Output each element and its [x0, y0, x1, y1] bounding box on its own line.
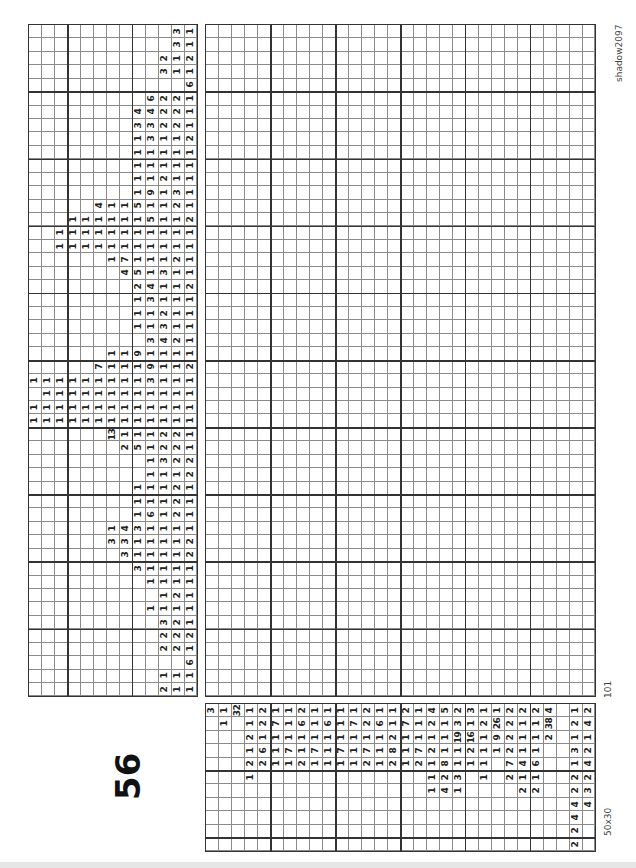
grid-cell[interactable] — [492, 616, 505, 629]
grid-cell[interactable] — [518, 159, 531, 172]
grid-cell[interactable] — [388, 92, 401, 105]
grid-cell[interactable] — [544, 119, 557, 132]
grid-cell[interactable] — [518, 79, 531, 92]
grid-cell[interactable] — [245, 307, 258, 320]
grid-cell[interactable] — [479, 119, 492, 132]
grid-cell[interactable] — [349, 656, 362, 669]
grid-cell[interactable] — [258, 495, 271, 508]
grid-cell[interactable] — [440, 79, 453, 92]
grid-cell[interactable] — [570, 186, 583, 199]
grid-cell[interactable] — [310, 267, 323, 280]
grid-cell[interactable] — [401, 92, 414, 105]
grid-cell[interactable] — [271, 226, 284, 239]
grid-cell[interactable] — [297, 52, 310, 65]
grid-cell[interactable] — [466, 495, 479, 508]
grid-cell[interactable] — [492, 535, 505, 548]
grid-cell[interactable] — [362, 200, 375, 213]
grid-cell[interactable] — [323, 482, 336, 495]
grid-cell[interactable] — [557, 602, 570, 615]
grid-cell[interactable] — [531, 522, 544, 535]
grid-cell[interactable] — [492, 656, 505, 669]
grid-cell[interactable] — [479, 562, 492, 575]
grid-cell[interactable] — [388, 656, 401, 669]
grid-cell[interactable] — [401, 38, 414, 51]
grid-cell[interactable] — [544, 159, 557, 172]
grid-cell[interactable] — [362, 52, 375, 65]
grid-cell[interactable] — [362, 495, 375, 508]
grid-cell[interactable] — [505, 253, 518, 266]
grid-cell[interactable] — [531, 132, 544, 145]
grid-cell[interactable] — [297, 146, 310, 159]
grid-cell[interactable] — [206, 146, 219, 159]
grid-cell[interactable] — [297, 226, 310, 239]
grid-cell[interactable] — [583, 549, 596, 562]
grid-cell[interactable] — [336, 173, 349, 186]
grid-cell[interactable] — [583, 441, 596, 454]
grid-cell[interactable] — [375, 119, 388, 132]
grid-cell[interactable] — [427, 267, 440, 280]
grid-cell[interactable] — [206, 186, 219, 199]
grid-cell[interactable] — [271, 253, 284, 266]
grid-cell[interactable] — [518, 401, 531, 414]
grid-cell[interactable] — [258, 589, 271, 602]
grid-cell[interactable] — [349, 52, 362, 65]
grid-cell[interactable] — [570, 683, 583, 696]
grid-cell[interactable] — [206, 468, 219, 481]
grid-cell[interactable] — [518, 106, 531, 119]
grid-cell[interactable] — [336, 25, 349, 38]
grid-cell[interactable] — [206, 656, 219, 669]
grid-cell[interactable] — [349, 414, 362, 427]
grid-cell[interactable] — [414, 79, 427, 92]
grid-cell[interactable] — [440, 240, 453, 253]
grid-cell[interactable] — [271, 119, 284, 132]
grid-cell[interactable] — [297, 441, 310, 454]
grid-cell[interactable] — [206, 495, 219, 508]
grid-cell[interactable] — [414, 589, 427, 602]
grid-cell[interactable] — [414, 65, 427, 78]
grid-cell[interactable] — [492, 428, 505, 441]
grid-cell[interactable] — [531, 226, 544, 239]
grid-cell[interactable] — [453, 240, 466, 253]
grid-cell[interactable] — [505, 374, 518, 387]
grid-cell[interactable] — [284, 441, 297, 454]
grid-cell[interactable] — [362, 589, 375, 602]
grid-cell[interactable] — [427, 320, 440, 333]
grid-cell[interactable] — [427, 629, 440, 642]
grid-cell[interactable] — [453, 159, 466, 172]
grid-cell[interactable] — [349, 65, 362, 78]
grid-cell[interactable] — [232, 535, 245, 548]
grid-cell[interactable] — [232, 468, 245, 481]
grid-cell[interactable] — [453, 65, 466, 78]
grid-cell[interactable] — [232, 482, 245, 495]
grid-cell[interactable] — [466, 428, 479, 441]
grid-cell[interactable] — [388, 535, 401, 548]
grid-cell[interactable] — [232, 576, 245, 589]
grid-cell[interactable] — [375, 334, 388, 347]
grid-cell[interactable] — [271, 643, 284, 656]
grid-cell[interactable] — [219, 294, 232, 307]
grid-cell[interactable] — [362, 414, 375, 427]
grid-cell[interactable] — [570, 200, 583, 213]
grid-cell[interactable] — [388, 616, 401, 629]
grid-cell[interactable] — [518, 495, 531, 508]
grid-cell[interactable] — [388, 549, 401, 562]
grid-cell[interactable] — [219, 522, 232, 535]
grid-cell[interactable] — [310, 294, 323, 307]
grid-cell[interactable] — [297, 482, 310, 495]
grid-cell[interactable] — [232, 388, 245, 401]
grid-cell[interactable] — [258, 38, 271, 51]
grid-cell[interactable] — [310, 213, 323, 226]
grid-cell[interactable] — [297, 522, 310, 535]
grid-cell[interactable] — [232, 38, 245, 51]
grid-cell[interactable] — [479, 549, 492, 562]
grid-cell[interactable] — [414, 38, 427, 51]
grid-cell[interactable] — [310, 253, 323, 266]
grid-cell[interactable] — [297, 576, 310, 589]
grid-cell[interactable] — [453, 670, 466, 683]
grid-cell[interactable] — [362, 92, 375, 105]
grid-cell[interactable] — [505, 347, 518, 360]
grid-cell[interactable] — [258, 643, 271, 656]
grid-cell[interactable] — [375, 441, 388, 454]
grid-cell[interactable] — [505, 602, 518, 615]
grid-cell[interactable] — [375, 508, 388, 521]
